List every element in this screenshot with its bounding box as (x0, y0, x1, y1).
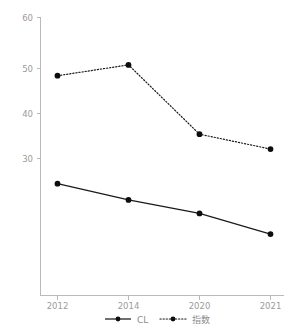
line-chart-svg: 60 50 40 30 2012 2014 2020 2021 CL 指数 (0, 0, 288, 330)
data-point[interactable] (126, 62, 132, 68)
x-tick-label-2012: 2012 (47, 301, 69, 311)
data-point[interactable] (55, 181, 61, 187)
series-shisu (55, 62, 274, 152)
series-cl (55, 181, 274, 237)
series-layer (55, 62, 274, 237)
data-point[interactable] (126, 197, 132, 203)
legend: CL 指数 (105, 314, 210, 325)
x-tick-labels: 2012 2014 2020 2021 (47, 301, 282, 311)
legend-marker-shisu (171, 317, 176, 322)
y-tick-label-60: 60 (22, 13, 33, 23)
chart-container: 60 50 40 30 2012 2014 2020 2021 CL 指数 (0, 0, 288, 330)
x-tick-label-2021: 2021 (260, 301, 282, 311)
series-line-cl (58, 184, 271, 234)
data-point[interactable] (55, 73, 61, 79)
legend-item-cl[interactable]: CL (105, 315, 148, 325)
data-point[interactable] (197, 131, 203, 137)
data-point[interactable] (268, 146, 274, 152)
axes-group (37, 18, 284, 300)
data-point[interactable] (268, 231, 274, 237)
x-tick-label-2014: 2014 (118, 301, 140, 311)
x-tick-label-2020: 2020 (189, 301, 211, 311)
y-tick-label-40: 40 (22, 109, 33, 119)
series-line-shisu (58, 65, 271, 149)
legend-label-shisu: 指数 (192, 314, 210, 325)
y-tick-labels: 60 50 40 30 (22, 13, 33, 164)
y-tick-label-50: 50 (22, 64, 33, 74)
legend-item-shisu[interactable]: 指数 (160, 314, 210, 325)
legend-marker-cl (116, 317, 121, 322)
legend-label-cl: CL (137, 315, 148, 325)
y-tick-label-30: 30 (22, 154, 33, 164)
data-point[interactable] (197, 211, 203, 217)
